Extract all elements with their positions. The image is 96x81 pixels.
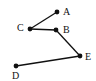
node-c — [28, 27, 33, 32]
node-d — [14, 64, 19, 69]
node-label-b: B — [63, 24, 70, 35]
graph-diagram: ABCDE — [0, 0, 96, 81]
node-label-a: A — [63, 6, 71, 17]
edge-e-d — [16, 56, 80, 66]
edge-c-b — [30, 29, 56, 30]
node-b — [54, 28, 59, 33]
node-e — [78, 54, 83, 59]
node-label-d: D — [12, 70, 19, 81]
node-a — [55, 10, 60, 15]
labels: ABCDE — [12, 6, 91, 81]
node-label-c: C — [17, 22, 24, 33]
node-label-e: E — [85, 51, 91, 62]
edge-c-a — [30, 12, 57, 29]
edges — [16, 12, 80, 66]
